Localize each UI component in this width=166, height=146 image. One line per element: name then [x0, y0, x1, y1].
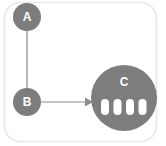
node-a[interactable]: A — [13, 3, 41, 31]
diagram-svg: A B C — [0, 0, 166, 146]
node-c-slot-2 — [114, 99, 122, 115]
node-c-label: C — [120, 75, 129, 89]
node-b[interactable]: B — [13, 88, 41, 116]
node-c-slot-4 — [139, 99, 147, 115]
node-c[interactable]: C — [91, 65, 157, 131]
node-b-label: B — [23, 95, 32, 109]
node-a-label: A — [23, 10, 32, 24]
node-c-slot-3 — [126, 99, 134, 115]
diagram-canvas: A B C — [0, 0, 166, 146]
node-c-slot-1 — [101, 99, 109, 115]
